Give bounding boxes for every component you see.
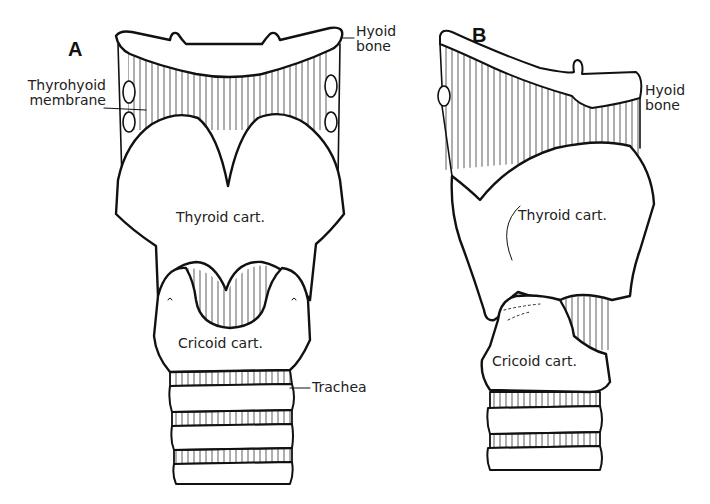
thyroid-cartilage-a	[116, 114, 344, 300]
label-thyrohyoid-membrane-a: Thyrohyoid membrane	[14, 78, 106, 108]
trachea-b	[487, 392, 602, 470]
label-thyroid-cartilage-a: Thyroid cart.	[176, 210, 265, 225]
label-hyoid-bone-b: Hyoid bone	[645, 83, 685, 113]
label-cricoid-cartilage-a: Cricoid cart.	[178, 336, 263, 351]
label-thyroid-cartilage-b: Thyroid cart.	[518, 208, 607, 223]
nodule-a-left-1	[123, 81, 135, 103]
label-hyoid-line2: bone	[356, 39, 396, 54]
label-trachea-a: Trachea	[312, 380, 367, 395]
label-hyoid-line1: Hyoid	[356, 24, 396, 39]
label-cricoid-cartilage-b: Cricoid cart.	[492, 354, 577, 369]
label-hyoid-bone-a: Hyoid bone	[356, 24, 396, 54]
nodule-a-left-2	[123, 112, 135, 132]
label-hyoid-line1: Hyoid	[645, 83, 685, 98]
larynx-illustration	[0, 0, 710, 504]
thyroid-cartilage-b	[452, 142, 654, 320]
panel-b-drawing	[438, 31, 654, 470]
panel-label-b: B	[472, 24, 486, 47]
nodule-a-right-1	[325, 75, 337, 97]
label-thyrohyoid-line2: membrane	[14, 93, 106, 108]
label-hyoid-line2: bone	[645, 98, 685, 113]
panel-a-drawing	[104, 28, 354, 484]
nodule-b	[438, 86, 450, 106]
trachea-a	[169, 370, 294, 484]
nodule-a-right-2	[325, 112, 337, 132]
label-thyrohyoid-line1: Thyrohyoid	[14, 78, 106, 93]
panel-label-a: A	[68, 38, 82, 61]
